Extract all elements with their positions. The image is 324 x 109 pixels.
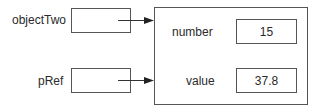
- field-value-number: 15: [236, 19, 297, 44]
- field-label-number: number: [172, 25, 213, 39]
- field-label-value: value: [186, 74, 215, 88]
- arrow-icon: [118, 77, 154, 84]
- arrow-icon: [118, 17, 154, 24]
- field-value-value: 37.8: [236, 68, 297, 93]
